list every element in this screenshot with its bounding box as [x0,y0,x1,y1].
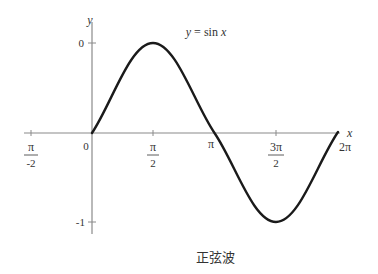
x-axis-label: x [346,126,353,140]
y-axis-label: y [86,13,93,27]
xtick-pi: π [208,137,214,151]
x-axis [24,130,340,136]
ytick-label-bottom: -1 [76,216,85,228]
ytick-label-top: 0 [79,37,85,49]
equation-label: y = sin x [185,25,227,39]
chart-caption: 正弦波 [196,250,235,265]
xtick-two-pi: 2π [339,140,351,154]
svg-text:π: π [150,140,156,154]
sine-chart: y x y = sin x 0 -1 π -2 0 π 2 π 3π 2 2π … [0,0,378,274]
svg-text:-2: -2 [26,157,35,169]
xtick-neg-pi-half: π -2 [24,140,38,169]
svg-text:2: 2 [150,157,156,169]
xtick-zero: 0 [83,140,89,152]
xtick-three-pi-half: 3π 2 [268,140,284,169]
svg-text:3π: 3π [270,140,282,154]
svg-text:2: 2 [273,157,279,169]
xtick-pi-half: π 2 [147,140,159,169]
svg-text:π: π [28,140,34,154]
